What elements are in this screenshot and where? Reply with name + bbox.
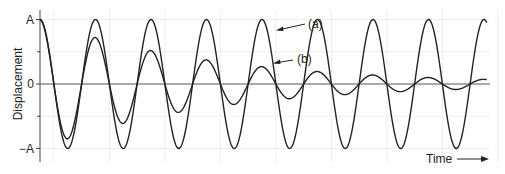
grid	[40, 10, 498, 162]
annotation-b-arrowhead	[273, 60, 281, 65]
x-axis-label: Time	[426, 152, 453, 166]
series-b-line	[40, 20, 487, 139]
y-tick-label: A	[26, 13, 34, 27]
y-tick-label: −A	[19, 142, 34, 156]
time-arrowhead	[481, 156, 489, 162]
y-tick-label: 0	[27, 77, 34, 91]
annotation-a-arrowhead	[276, 27, 284, 32]
annotation-a-label: (a)	[308, 17, 323, 31]
displacement-time-chart: A0−A Displacement (a) (b) Time	[0, 0, 505, 174]
annotation-b-label: (b)	[297, 52, 312, 66]
y-axis-label: Displacement	[11, 47, 25, 120]
